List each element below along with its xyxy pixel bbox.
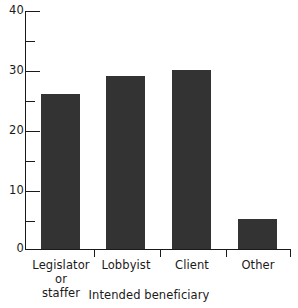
y-tick-10 — [26, 191, 40, 192]
bar-legislator-or-staffer — [41, 94, 80, 249]
bar-other — [238, 219, 277, 249]
x-category-label-line1: Legislator or — [27, 258, 95, 286]
y-tick-35 — [26, 41, 35, 42]
y-tick-20 — [26, 131, 40, 132]
x-category-label-lobbyist: Lobbyist — [92, 258, 160, 272]
bar-chart: 40 30 20 10 0 Legislator or staffer Lobb… — [0, 0, 298, 308]
x-tick-3 — [226, 250, 227, 257]
y-tick-label-20: 20 — [9, 125, 24, 137]
x-category-label-other: Other — [224, 258, 292, 272]
x-tick-4 — [290, 250, 291, 257]
bar-client — [172, 70, 211, 249]
y-tick-30 — [26, 71, 40, 72]
y-tick-15 — [26, 161, 35, 162]
y-tick-label-30: 30 — [9, 65, 24, 77]
x-tick-2 — [160, 250, 161, 257]
y-tick-25 — [26, 101, 35, 102]
y-tick-label-10: 10 — [9, 185, 24, 197]
y-tick-label-40: 40 — [9, 5, 24, 17]
y-tick-5 — [26, 221, 35, 222]
y-tick-40 — [26, 11, 40, 12]
x-axis-title: Intended beneficiary — [0, 289, 298, 302]
y-tick-label-0: 0 — [16, 243, 24, 255]
x-category-label-client: Client — [158, 258, 226, 272]
x-axis-line — [25, 249, 291, 250]
y-tick-0 — [26, 249, 40, 250]
x-tick-1 — [94, 250, 95, 257]
bar-lobbyist — [106, 76, 145, 249]
